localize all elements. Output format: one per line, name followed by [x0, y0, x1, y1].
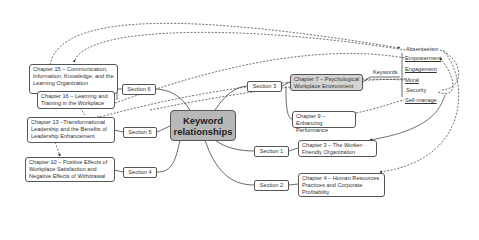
keyword-moral[interactable]: Moral [405, 77, 419, 84]
keywords-label: Keywords [373, 69, 398, 75]
section-3-node[interactable]: Section 3 [247, 81, 282, 92]
chapter-13-node[interactable]: Chapter 13 –Transformational Leadership … [27, 117, 115, 143]
chapter-4-node[interactable]: Chapter 4 – Human Resources Practices an… [298, 173, 385, 197]
keyword-empowerment[interactable]: Empowerment [405, 55, 441, 62]
central-topic-line1: Keyword [171, 115, 235, 126]
keyword-engagement[interactable]: Engagement [405, 66, 437, 73]
keyword-security[interactable]: Security [406, 87, 426, 94]
chapter-16-node[interactable]: Chapter 16 – Learning and Training in th… [37, 91, 115, 109]
chapter-7-node[interactable]: Chapter 7 – Psychological Workplace Envi… [290, 74, 363, 91]
keyword-self-manage[interactable]: Self-manage [405, 97, 437, 104]
section-4-node[interactable]: Section 4 [123, 167, 157, 178]
section-2-node[interactable]: Section 2 [254, 180, 289, 191]
chapter-9-node[interactable]: Chapter 9 – Enhancing Performance [292, 111, 356, 128]
chapter-15-node[interactable]: Chapter 15 – Communication, Information,… [29, 64, 118, 94]
central-topic-node[interactable]: Keyword relationships [170, 110, 236, 141]
section-1-node[interactable]: Section 1 [254, 146, 289, 157]
keyword-absenteeism[interactable]: Absenteeism [406, 46, 438, 53]
section-6-node[interactable]: Section 6 [122, 84, 156, 95]
chapter-3-node[interactable]: Chapter 3 – The Worker-Friendly Organiza… [298, 140, 377, 157]
chapter-10-node[interactable]: Chapter 10 – Positive Effects of Workpla… [25, 157, 115, 182]
section-5-node[interactable]: Section 5 [123, 127, 157, 138]
central-topic-line2: relationships [171, 126, 235, 137]
